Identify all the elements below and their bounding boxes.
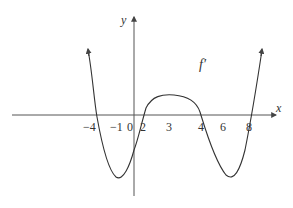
tick-label: 0 bbox=[127, 120, 133, 134]
tick-label: 4 bbox=[198, 120, 204, 134]
tick-label: 2 bbox=[140, 120, 146, 134]
curve-label: f′ bbox=[199, 57, 207, 72]
curve-arrow-right bbox=[261, 49, 262, 56]
tick-label: 3 bbox=[166, 120, 172, 134]
derivative-curve bbox=[88, 50, 262, 178]
y-axis-label: y bbox=[120, 13, 127, 27]
derivative-graph: x y f′ −4 −1 0 2 3 4 6 8 bbox=[0, 0, 293, 208]
tick-label: −1 bbox=[110, 120, 123, 134]
tick-label: 8 bbox=[246, 120, 252, 134]
tick-label: 6 bbox=[220, 120, 226, 134]
x-axis-label: x bbox=[275, 101, 282, 115]
tick-label: −4 bbox=[83, 120, 96, 134]
curve-arrow-left bbox=[88, 49, 89, 56]
